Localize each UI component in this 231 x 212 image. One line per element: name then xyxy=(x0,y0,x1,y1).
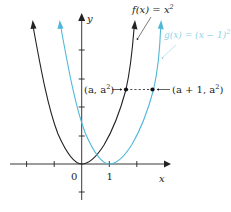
x-tick-label-1: 1 xyxy=(107,171,113,182)
parabola-shift-diagram: y x 0 1 (a, a2) (a + 1, a2) f(x) = x2 g xyxy=(0,0,231,212)
y-axis-label: y xyxy=(86,13,93,24)
point-a-plus-1-dot xyxy=(150,87,154,91)
point-a-plus-1-label: (a + 1, a2) xyxy=(157,83,223,95)
curve-f-right-arrow-icon xyxy=(132,20,138,30)
svg-text:g(x) = (x − 1)2: g(x) = (x − 1)2 xyxy=(164,28,230,40)
point-a-label: (a, a2) xyxy=(84,83,122,95)
curve-f-left-arrow-icon xyxy=(31,20,37,29)
svg-text:(a + 1, a2): (a + 1, a2) xyxy=(172,83,223,95)
x-axis-arrow-icon xyxy=(164,161,171,168)
y-axis xyxy=(78,13,85,200)
svg-text:(a, a2): (a, a2) xyxy=(84,83,114,95)
curve-g-left-arrow-icon xyxy=(58,20,64,29)
point-a-dot xyxy=(124,87,128,91)
svg-text:f(x) = x2: f(x) = x2 xyxy=(131,3,174,15)
x-axis-label: x xyxy=(159,173,165,184)
origin-label: 0 xyxy=(71,171,77,182)
curve-g-label: g(x) = (x − 1)2 xyxy=(162,28,231,59)
curve-f xyxy=(33,27,134,164)
x-axis xyxy=(10,161,171,168)
curve-g xyxy=(61,27,161,164)
curve-g-right-arrow-icon xyxy=(158,20,164,30)
y-axis-arrow-icon xyxy=(78,13,85,21)
